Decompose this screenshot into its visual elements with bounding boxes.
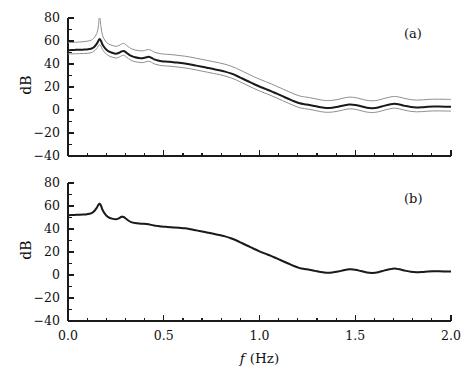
curve-group	[68, 203, 451, 273]
y-ticks	[68, 183, 74, 321]
panel-tag-b: (b)	[404, 191, 422, 206]
curve-overlay	[68, 203, 451, 273]
y-tick-label: −40	[16, 313, 60, 328]
x-tick-label: 2.0	[426, 328, 466, 343]
x-tick-label: 0.0	[43, 328, 93, 343]
x-axis-label-symbol: f	[240, 350, 245, 366]
curve-estimate	[68, 204, 451, 273]
x-tick-label: 1.0	[235, 328, 285, 343]
x-axis-label: f(Hz)	[220, 350, 300, 366]
y-axis-label: dB	[18, 220, 34, 280]
y-tick-label: −20	[16, 290, 60, 305]
figure-spectral-density: −40−20020406080dB(a)−40−200204060800.00.…	[0, 0, 466, 383]
y-tick-label: 60	[16, 198, 60, 213]
x-axis-label-unit: (Hz)	[250, 350, 279, 366]
x-tick-label: 0.5	[139, 328, 189, 343]
x-ticks	[68, 315, 451, 321]
panel-b-plot	[0, 0, 466, 383]
x-tick-label: 1.5	[330, 328, 380, 343]
y-tick-label: 80	[16, 175, 60, 190]
